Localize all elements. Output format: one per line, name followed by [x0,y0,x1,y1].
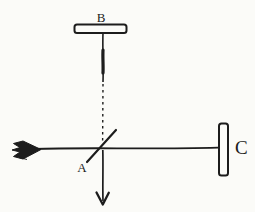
beam-splitter-line [87,130,116,162]
mirror-top [75,25,127,34]
beam-horizontal [34,148,218,149]
mirror-right-label: C [235,137,248,158]
source-arrow-fletching-icon [12,141,41,159]
beam-splitter-label: A [77,160,87,175]
interferometer-diagram: B A C [0,0,255,212]
mirror-top-label: B [97,10,106,25]
figure-container: B A C [0,0,255,212]
mirror-right [219,124,228,176]
